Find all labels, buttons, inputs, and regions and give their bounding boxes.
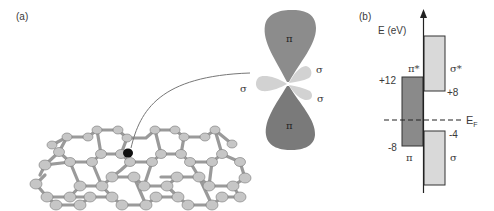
pi-star-label: π* [408,64,420,74]
pi-band [402,77,423,146]
sigma-band-top-value: -4 [449,130,458,140]
pi-band-top-value: +12 [379,76,396,86]
pi-top-label: π [286,34,293,44]
energy-axis-label: E (eV) [378,26,406,36]
sigma-star-band [424,36,445,91]
sigma-band-label: σ [450,153,457,163]
sigma-band [424,131,445,185]
pi-bottom-label: π [286,121,293,131]
sigma-left-label: σ [240,84,247,94]
pi-band-bottom-value: -8 [388,143,397,153]
panel-b-label: (b) [359,12,371,22]
band-diagram [384,9,461,193]
axis-arrowhead-icon [420,9,427,18]
fermi-level-label: EF [466,115,478,128]
sigma-lobe-left [256,76,287,91]
panel-a-label: (a) [16,12,28,22]
figure-canvas [0,0,494,211]
fermi-subscript: F [473,121,477,128]
sigma-lower-right-label: σ [317,94,324,104]
sigma-upper-right-label: σ [316,65,323,75]
pi-band-label: π [406,153,413,163]
graphene-sheet [30,126,251,210]
sigma-star-bottom-value: +8 [447,88,458,98]
sigma-star-label: σ* [450,64,462,74]
highlighted-carbon-atom [123,149,133,158]
